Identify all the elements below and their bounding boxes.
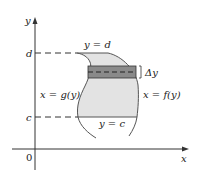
d-label: d <box>26 48 32 59</box>
shaded-region <box>77 53 138 117</box>
delta-y-label: Δy <box>144 67 158 78</box>
delta-y-bracket <box>139 66 141 78</box>
origin-label: 0 <box>26 152 32 163</box>
right-curve-label: x = f(y) <box>143 89 181 100</box>
y-axis-label: y <box>24 15 31 26</box>
left-curve-label: x = g(y) <box>40 89 80 100</box>
bottom-boundary-label: y = c <box>98 118 125 129</box>
region-diagram: y x 0 d c y = d y = c x = g(y) x = f(y) … <box>0 0 197 176</box>
x-axis-arrow-icon <box>182 147 189 152</box>
c-label: c <box>26 112 32 123</box>
top-boundary-label: y = d <box>83 39 111 50</box>
x-axis-label: x <box>181 153 187 164</box>
y-axis-arrow-icon <box>33 17 38 24</box>
